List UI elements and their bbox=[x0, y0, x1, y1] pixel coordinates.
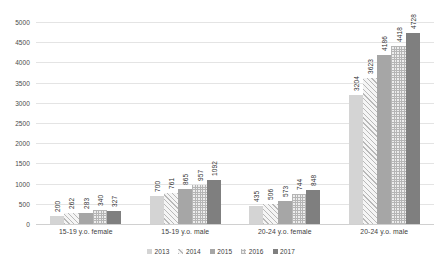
bar-value-label: 4186 bbox=[381, 36, 388, 51]
legend-swatch-icon bbox=[273, 249, 278, 254]
bar-value-label: 848 bbox=[311, 175, 318, 186]
legend-item-2013[interactable]: 2013 bbox=[147, 248, 169, 255]
bar-value-label: 435 bbox=[253, 191, 260, 202]
bar-slot: 200 bbox=[50, 22, 64, 224]
bar[interactable]: 744 bbox=[292, 194, 306, 224]
x-axis-category-label: 15-19 y.o. female bbox=[36, 228, 136, 235]
bar-slot: 340 bbox=[93, 22, 107, 224]
bar[interactable]: 957 bbox=[192, 185, 206, 224]
legend-item-2014[interactable]: 2014 bbox=[178, 248, 200, 255]
y-axis-tick-label: 4500 bbox=[0, 39, 30, 46]
y-axis-tick-label: 4000 bbox=[0, 59, 30, 66]
bar[interactable]: 700 bbox=[150, 196, 164, 224]
legend-label: 2016 bbox=[249, 248, 264, 255]
bar-slot: 761 bbox=[164, 22, 178, 224]
bar-slot: 435 bbox=[249, 22, 263, 224]
bar-group-bars: 32043623418644184728 bbox=[335, 22, 435, 224]
bar-slot: 4728 bbox=[406, 22, 420, 224]
bar-group-bars: 200262283340327 bbox=[36, 22, 136, 224]
legend-label: 2013 bbox=[155, 248, 170, 255]
bar[interactable]: 3204 bbox=[349, 95, 363, 224]
bar[interactable]: 327 bbox=[107, 211, 121, 224]
legend-item-2015[interactable]: 2015 bbox=[210, 248, 232, 255]
bar[interactable]: 283 bbox=[79, 213, 93, 224]
bar-value-label: 283 bbox=[83, 197, 90, 208]
bar-value-label: 4728 bbox=[410, 14, 417, 29]
bar[interactable]: 573 bbox=[278, 201, 292, 224]
bar[interactable]: 506 bbox=[263, 204, 277, 224]
bar-slot: 3204 bbox=[349, 22, 363, 224]
bar-group: 435506573744848 bbox=[235, 22, 335, 224]
bar-slot: 865 bbox=[178, 22, 192, 224]
bar-slot: 3623 bbox=[363, 22, 377, 224]
bar[interactable]: 3623 bbox=[363, 78, 377, 224]
bar-slot: 1092 bbox=[207, 22, 221, 224]
bar-slot: 283 bbox=[79, 22, 93, 224]
y-axis-tick-label: 3500 bbox=[0, 79, 30, 86]
bar-value-label: 700 bbox=[154, 181, 161, 192]
bar-slot: 700 bbox=[150, 22, 164, 224]
legend-label: 2014 bbox=[186, 248, 201, 255]
bar[interactable]: 262 bbox=[64, 213, 78, 224]
gridline bbox=[36, 224, 434, 225]
bar[interactable]: 848 bbox=[306, 190, 320, 224]
bar-value-label: 744 bbox=[296, 179, 303, 190]
bar-value-label: 865 bbox=[182, 174, 189, 185]
legend-swatch-icon bbox=[241, 249, 246, 254]
bar-value-label: 200 bbox=[54, 201, 61, 212]
bar-group: 7007618659571092 bbox=[136, 22, 236, 224]
bar-value-label: 4418 bbox=[396, 27, 403, 42]
bar[interactable]: 435 bbox=[249, 206, 263, 224]
bar-slot: 262 bbox=[64, 22, 78, 224]
bar-group-bars: 435506573744848 bbox=[235, 22, 335, 224]
bar-slot: 957 bbox=[192, 22, 206, 224]
legend-item-2017[interactable]: 2017 bbox=[273, 248, 295, 255]
y-axis-tick-label: 500 bbox=[0, 200, 30, 207]
bar-slot: 573 bbox=[278, 22, 292, 224]
bar-value-label: 3204 bbox=[353, 76, 360, 91]
bar[interactable]: 4728 bbox=[406, 33, 420, 224]
bar-value-label: 262 bbox=[69, 198, 76, 209]
legend-label: 2015 bbox=[217, 248, 232, 255]
y-axis-tick-label: 3000 bbox=[0, 99, 30, 106]
bar[interactable]: 4418 bbox=[391, 46, 405, 224]
bar-slot: 4186 bbox=[377, 22, 391, 224]
bar-group: 200262283340327 bbox=[36, 22, 136, 224]
bar-slot: 327 bbox=[107, 22, 121, 224]
x-axis-category-labels: 15-19 y.o. female15-19 y.o. male20-24 y.… bbox=[36, 228, 434, 235]
y-axis-tick-label: 2500 bbox=[0, 120, 30, 127]
bar[interactable]: 4186 bbox=[377, 55, 391, 224]
bar-slot: 4418 bbox=[391, 22, 405, 224]
y-axis-tick-label: 5000 bbox=[0, 19, 30, 26]
bar[interactable]: 340 bbox=[93, 210, 107, 224]
bar-chart: 0500100015002000250030003500400045005000… bbox=[0, 0, 442, 266]
bar[interactable]: 761 bbox=[164, 193, 178, 224]
bar-value-label: 340 bbox=[97, 195, 104, 206]
bar-groups: 2002622833403277007618659571092435506573… bbox=[36, 22, 434, 224]
legend-item-2016[interactable]: 2016 bbox=[241, 248, 263, 255]
legend-label: 2017 bbox=[280, 248, 295, 255]
bar-value-label: 1092 bbox=[211, 161, 218, 176]
bar-value-label: 327 bbox=[112, 196, 119, 207]
bar-group-bars: 7007618659571092 bbox=[136, 22, 236, 224]
plot-area: 2002622833403277007618659571092435506573… bbox=[36, 22, 434, 224]
bar[interactable]: 200 bbox=[50, 216, 64, 224]
x-axis-category-label: 20-24 y.o. female bbox=[235, 228, 335, 235]
bar[interactable]: 1092 bbox=[207, 180, 221, 224]
chart-legend: 20132014201520162017 bbox=[0, 248, 442, 255]
legend-swatch-icon bbox=[178, 249, 183, 254]
bar-value-label: 3623 bbox=[367, 59, 374, 74]
bar-group: 32043623418644184728 bbox=[335, 22, 435, 224]
y-axis-tick-label: 2000 bbox=[0, 140, 30, 147]
bar-value-label: 573 bbox=[282, 186, 289, 197]
y-axis-tick-label: 1000 bbox=[0, 180, 30, 187]
x-axis-category-label: 15-19 y.o. male bbox=[136, 228, 236, 235]
x-axis-category-label: 20-24 y.o. male bbox=[335, 228, 435, 235]
bar-slot: 848 bbox=[306, 22, 320, 224]
legend-swatch-icon bbox=[147, 249, 152, 254]
bar-value-label: 761 bbox=[168, 178, 175, 189]
y-axis-tick-label: 0 bbox=[0, 221, 30, 228]
bar[interactable]: 865 bbox=[178, 189, 192, 224]
legend-swatch-icon bbox=[210, 249, 215, 254]
bar-slot: 744 bbox=[292, 22, 306, 224]
